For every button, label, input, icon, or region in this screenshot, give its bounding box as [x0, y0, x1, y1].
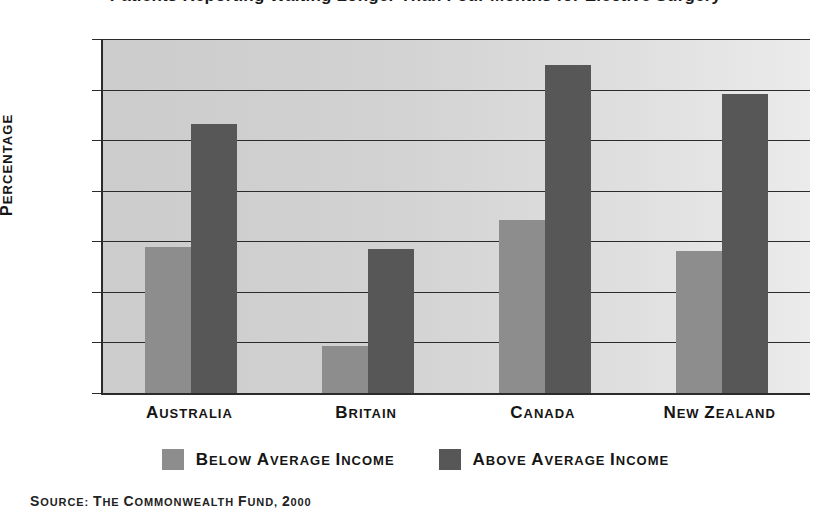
bar-canada-above-average-income: [545, 65, 591, 393]
bar-canada-below-average-income: [499, 220, 545, 393]
chart-figure: Patients Reporting Waiting Longer Than F…: [0, 0, 831, 526]
bar-new-zealand-above-average-income: [722, 94, 768, 393]
x-tick-label-new-zealand: NEW ZEALAND: [610, 403, 830, 423]
y-tick-mark-10: [92, 342, 101, 343]
legend-label-below: BELOW AVERAGE INCOME: [196, 450, 395, 470]
bar-britain-below-average-income: [322, 346, 368, 393]
source-note: SOURCE: THE COMMONWEALTH FUND, 2000: [30, 493, 312, 509]
chart-title-text: Patients Reporting Waiting Longer Than F…: [0, 0, 831, 6]
legend-item-below-average-income: BELOW AVERAGE INCOME: [162, 449, 395, 470]
y-tick-mark-0: [92, 393, 101, 394]
y-tick-mark-20: [92, 292, 101, 293]
y-tick-mark-70: [92, 39, 101, 40]
legend-swatch-icon-above: [439, 449, 461, 470]
bar-australia-above-average-income: [191, 124, 237, 393]
bar-new-zealand-below-average-income: [676, 251, 722, 393]
plot-area: 010203040506070: [101, 39, 810, 395]
gridline-60: [103, 90, 810, 91]
y-tick-mark-30: [92, 241, 101, 242]
legend-swatch-icon-below: [162, 449, 184, 470]
bar-britain-above-average-income: [368, 249, 414, 393]
legend-item-above-average-income: ABOVE AVERAGE INCOME: [439, 449, 670, 470]
y-tick-mark-50: [92, 140, 101, 141]
legend-label-above: ABOVE AVERAGE INCOME: [473, 450, 670, 470]
y-tick-mark-60: [92, 90, 101, 91]
chart-title-clipped: Patients Reporting Waiting Longer Than F…: [0, 0, 831, 8]
gridline-70: [103, 39, 810, 40]
chart-legend: BELOW AVERAGE INCOME ABOVE AVERAGE INCOM…: [0, 449, 831, 470]
y-tick-mark-40: [92, 191, 101, 192]
y-axis-label: PERCENTAGE: [0, 114, 16, 216]
bar-australia-below-average-income: [145, 247, 191, 393]
